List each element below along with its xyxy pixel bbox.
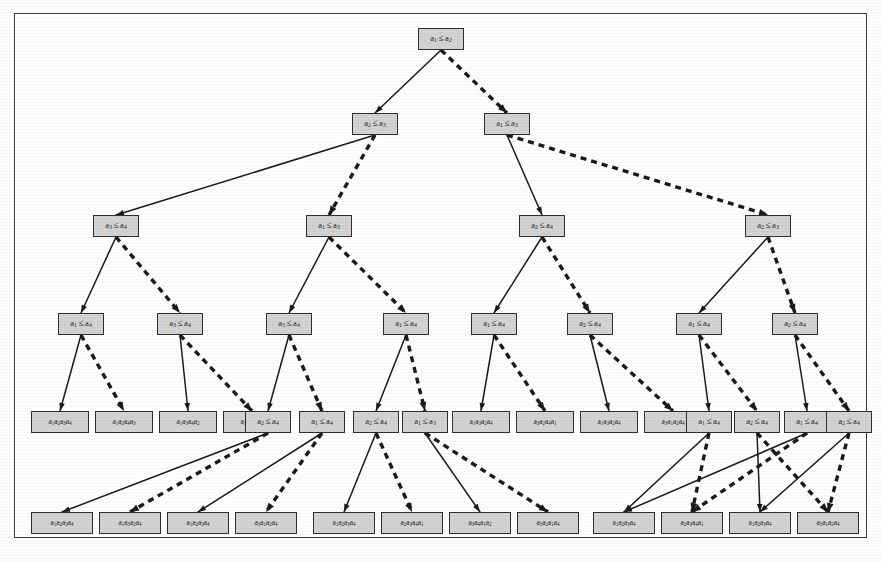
- decision-node: a2≤a4: [734, 411, 780, 433]
- leaf-node: a1a2a3a4: [31, 512, 93, 534]
- edge-arrowhead: [81, 305, 87, 313]
- tree-edge-true: [760, 433, 849, 512]
- tree-edge-false: [507, 135, 768, 215]
- decision-node: a2≤a3: [745, 215, 791, 237]
- decision-node: a1≤a3: [306, 215, 352, 237]
- leaf-node: a1a3a2a4: [99, 512, 161, 534]
- decision-node: a2≤a4: [772, 313, 818, 335]
- permutation-label: a1a2a3a4: [186, 519, 209, 527]
- tree-edge-true: [198, 433, 322, 512]
- permutation-label: a1a3a2a4: [118, 519, 141, 527]
- leaf-node: a1a2a3a4: [593, 512, 655, 534]
- tree-edge-false: [768, 237, 795, 313]
- comparison-label: a2≤a4: [257, 417, 279, 427]
- edge-arrowhead: [604, 403, 609, 411]
- tree-edge-false: [376, 433, 412, 512]
- edge-arrowhead: [267, 403, 272, 411]
- tree-edge-true: [180, 335, 188, 411]
- edge-arrowhead: [198, 505, 206, 512]
- tree-edge-false: [180, 335, 252, 411]
- tree-edge-true: [795, 335, 807, 411]
- tree-edge-true: [62, 433, 268, 512]
- comparison-label: a1≤a3: [414, 417, 436, 427]
- decision-node: a1≤a3: [402, 411, 448, 433]
- edge-arrowhead: [266, 503, 274, 512]
- leaf-node: a1a3a4a2: [159, 411, 217, 433]
- permutation-label: a1a2a3a4: [48, 418, 71, 426]
- tree-edge-true: [757, 433, 760, 512]
- decision-node: a1≤a4: [299, 411, 345, 433]
- leaf-node: a2a3a4a1: [661, 512, 723, 534]
- comparison-label: a3≤a4: [169, 319, 191, 329]
- comparison-label: a1≤a4: [483, 319, 505, 329]
- edge-arrowhead: [289, 305, 295, 313]
- permutation-label: a3a1a2a4: [816, 519, 839, 527]
- comparison-label: a1≤a4: [311, 417, 333, 427]
- edge-arrowhead: [344, 504, 350, 512]
- decision-node: a2≤a4: [826, 411, 872, 433]
- permutation-label: a1a3a2a4: [469, 418, 492, 426]
- tree-edges-canvas: [0, 0, 881, 562]
- tree-edge-false: [130, 433, 268, 512]
- decision-node: a1≤a4: [784, 411, 830, 433]
- decision-node: a2≤a4: [245, 411, 291, 433]
- comparison-label: a1≤a4: [796, 417, 818, 427]
- decision-node: a1≤a3: [484, 113, 530, 135]
- tree-edge-false: [692, 433, 807, 512]
- tree-edge-false: [81, 335, 124, 411]
- tree-edge-true: [494, 237, 542, 313]
- leaf-node: a1a3a2a4: [452, 411, 510, 433]
- leaf-node: a1a3a2a4: [580, 411, 638, 433]
- tree-edge-false: [757, 433, 828, 512]
- comparison-label: a2≤a4: [746, 417, 768, 427]
- permutation-label: a1a3a4a2: [176, 418, 199, 426]
- leaf-node: a1a2a3a4: [313, 512, 375, 534]
- leaf-node: a1a2a3a4: [729, 512, 791, 534]
- tree-edge-false: [266, 433, 322, 512]
- leaf-node: a1a2a3a4: [31, 411, 89, 433]
- permutation-label: a1a2a3a4: [50, 519, 73, 527]
- tree-edge-true: [81, 237, 116, 313]
- tree-edge-false: [441, 50, 507, 113]
- leaf-node: a1a2a4a3: [95, 411, 153, 433]
- leaf-node: a3a4a1a2: [449, 512, 511, 534]
- permutation-label: a3a1a2a4: [661, 418, 684, 426]
- tree-edge-false: [116, 237, 180, 313]
- edge-arrowhead: [376, 403, 382, 411]
- figure-root: a1≤a2a2≤a3a1≤a3a3≤a4a1≤a3a2≤a4a2≤a3a1≤a4…: [0, 0, 881, 562]
- decision-node: a2≤a4: [353, 411, 399, 433]
- comparison-label: a1≤a4: [688, 319, 710, 329]
- edge-arrowhead: [59, 403, 64, 411]
- leaf-node: a3a2a4a1: [516, 411, 574, 433]
- decision-node: a3≤a4: [93, 215, 139, 237]
- leaf-node: a3a1a2a4: [235, 512, 297, 534]
- edge-arrowhead: [705, 403, 711, 411]
- permutation-label: a1a2a3a4: [748, 519, 771, 527]
- comparison-label: a2≤a3: [757, 221, 779, 231]
- permutation-label: a1a2a3a4: [612, 519, 635, 527]
- comparison-label: a2≤a3: [364, 119, 386, 129]
- decision-node: a1≤a4: [58, 313, 104, 335]
- permutation-label: a1a3a2a4: [597, 418, 620, 426]
- tree-edge-true: [590, 335, 609, 411]
- edge-arrowhead: [315, 401, 322, 411]
- tree-edge-false: [329, 237, 406, 313]
- permutation-label: a1a2a4a3: [112, 418, 135, 426]
- permutation-label: a3a1a2a4: [254, 519, 277, 527]
- comparison-label: a2≤a4: [838, 417, 860, 427]
- tree-edge-true: [699, 237, 768, 313]
- edge-arrowhead: [789, 303, 795, 313]
- decision-node: a2≤a3: [352, 113, 398, 135]
- edge-arrowhead: [420, 401, 427, 411]
- edge-arrowhead: [397, 304, 406, 313]
- edge-arrowhead: [536, 207, 542, 215]
- tree-edge-true: [507, 135, 542, 215]
- comparison-label: a1≤a4: [698, 417, 720, 427]
- edge-arrowhead: [749, 402, 757, 411]
- leaf-node: a1a2a3a4: [167, 512, 229, 534]
- comparison-label: a1≤a4: [70, 319, 92, 329]
- leaf-node: a3a1a2a4: [797, 512, 859, 534]
- edge-arrowhead: [803, 403, 809, 411]
- decision-node: a1≤a2: [418, 28, 464, 50]
- tree-edge-false: [542, 237, 590, 313]
